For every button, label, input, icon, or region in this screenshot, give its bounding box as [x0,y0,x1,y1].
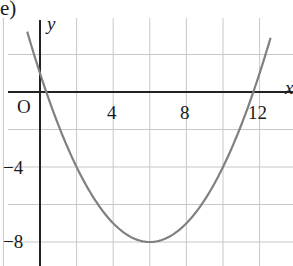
x-tick-4: 4 [107,103,117,122]
parabola-curve [27,32,270,242]
x-axis-label: x [285,78,293,97]
y-tick-neg8: −8 [3,232,23,251]
grid [3,18,293,266]
x-tick-8: 8 [180,103,190,122]
origin-label: O [17,97,31,116]
axes [8,20,293,266]
y-axis-label: y [47,14,55,33]
parabola-chart [0,0,293,266]
panel-label: e) [0,0,16,19]
y-tick-neg4: −4 [3,158,23,177]
x-tick-12: 12 [248,103,267,122]
